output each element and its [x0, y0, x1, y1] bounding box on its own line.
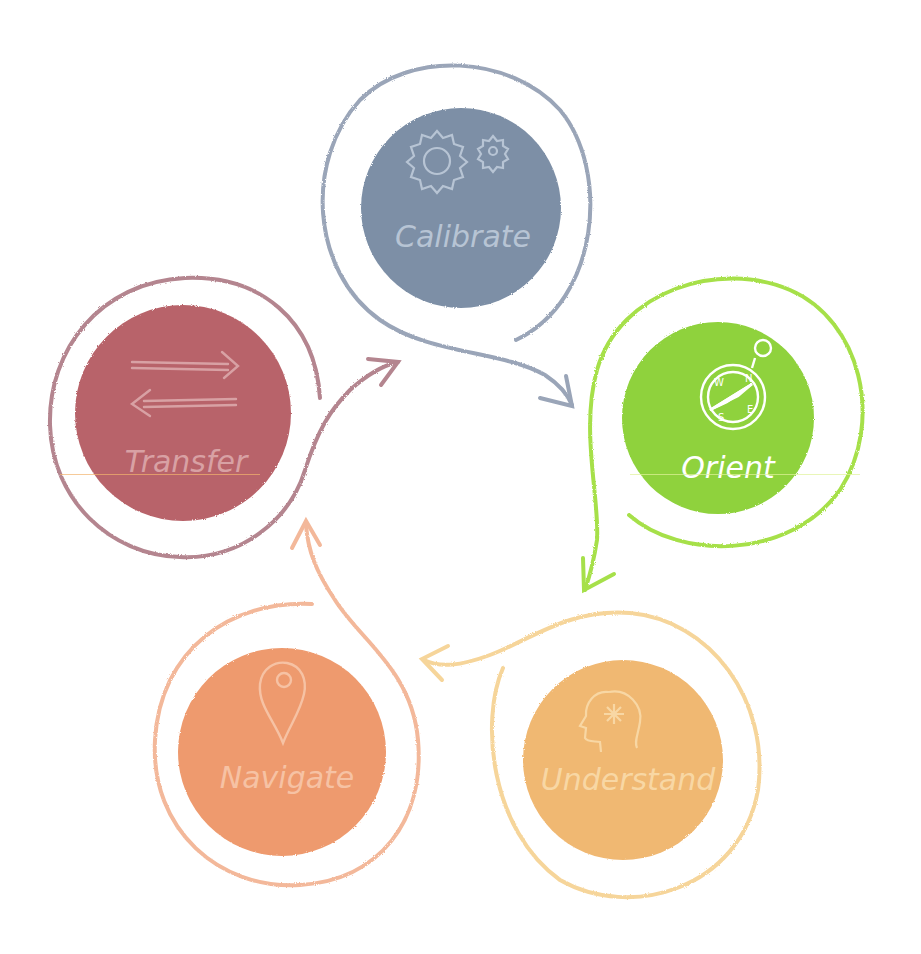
- stage-understand: Understand: [422, 612, 760, 897]
- stage-orient: N E S W Orient: [583, 279, 863, 590]
- scan-artifact-line: [60, 474, 260, 475]
- orient-label: Orient: [681, 450, 776, 485]
- scan-artifact-line: [630, 474, 860, 475]
- calibrate-label: Calibrate: [395, 219, 531, 254]
- stage-navigate: Navigate: [155, 521, 419, 885]
- svg-text:S: S: [718, 412, 724, 423]
- calibrate-fill: [361, 108, 561, 308]
- svg-text:W: W: [714, 377, 724, 388]
- svg-text:E: E: [747, 404, 753, 415]
- navigate-label: Navigate: [220, 760, 355, 795]
- transfer-fill: [75, 305, 291, 521]
- stage-calibrate: Calibrate: [323, 65, 591, 406]
- stage-transfer: Transfer: [50, 278, 398, 557]
- calibrate-to-orient-arrowhead: [540, 376, 572, 406]
- svg-text:N: N: [745, 373, 752, 384]
- understand-fill: [523, 660, 723, 860]
- cycle-diagram: Calibrate N E S W Orient Understand: [0, 0, 921, 954]
- navigate-fill: [178, 648, 386, 856]
- understand-label: Understand: [541, 762, 717, 797]
